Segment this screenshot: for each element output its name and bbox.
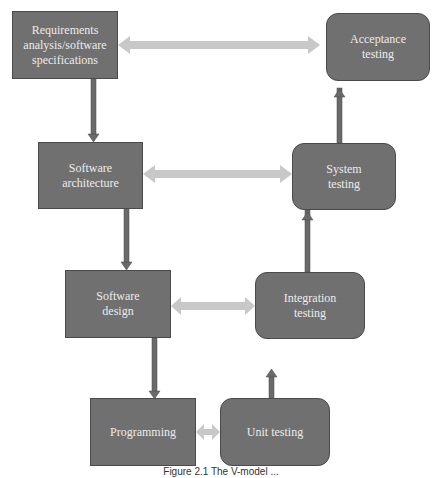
node-label: Software design bbox=[96, 289, 139, 319]
node-programming: Programming bbox=[90, 398, 196, 466]
node-label: Unit testing bbox=[247, 425, 303, 440]
node-label: Acceptance testing bbox=[350, 32, 406, 62]
node-acceptance-testing: Acceptance testing bbox=[326, 13, 430, 81]
node-label: Integration testing bbox=[284, 291, 337, 321]
node-integration-testing: Integration testing bbox=[255, 272, 365, 339]
figure-caption: Figure 2.1 The V-model ... bbox=[0, 466, 442, 477]
node-label: System testing bbox=[326, 162, 361, 192]
node-software-design: Software design bbox=[65, 270, 171, 338]
node-label: Software architecture bbox=[62, 161, 119, 191]
node-label: Programming bbox=[110, 425, 176, 440]
node-software-architecture: Software architecture bbox=[38, 142, 143, 209]
node-requirements: Requirements analysis/software specifica… bbox=[12, 11, 118, 79]
node-unit-testing: Unit testing bbox=[220, 398, 330, 466]
node-label: Requirements analysis/software specifica… bbox=[23, 23, 106, 68]
node-system-testing: System testing bbox=[292, 143, 396, 210]
